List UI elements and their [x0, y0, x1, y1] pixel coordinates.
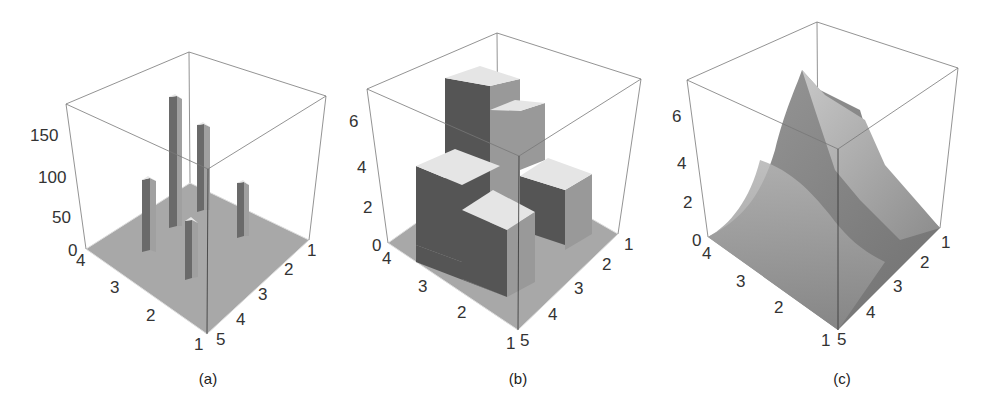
- svg-text:3: 3: [736, 272, 745, 291]
- panel-c: 6420 4321 54321 (c): [660, 0, 990, 411]
- figure: 150100500 4321 54321 (a): [0, 0, 992, 411]
- svg-text:1: 1: [194, 335, 203, 354]
- svg-text:1: 1: [624, 235, 633, 254]
- svg-text:50: 50: [52, 208, 71, 227]
- svg-text:1: 1: [821, 331, 830, 350]
- svg-text:2: 2: [457, 303, 466, 322]
- svg-text:3: 3: [110, 278, 119, 297]
- chart-b-bar3d: 6420 4321 54321: [330, 0, 660, 411]
- svg-text:5: 5: [216, 330, 225, 349]
- chart-a-bar3d: 150100500 4321 54321: [0, 0, 330, 411]
- svg-text:1: 1: [941, 233, 950, 252]
- svg-text:4: 4: [357, 158, 366, 177]
- svg-text:2: 2: [146, 306, 155, 325]
- svg-text:4: 4: [866, 303, 875, 322]
- svg-text:2: 2: [920, 253, 929, 272]
- svg-text:3: 3: [418, 277, 427, 296]
- svg-text:3: 3: [258, 285, 267, 304]
- svg-text:4: 4: [236, 310, 245, 329]
- svg-text:6: 6: [672, 107, 681, 126]
- svg-text:4: 4: [677, 154, 686, 173]
- panel-a: 150100500 4321 54321 (a): [0, 0, 330, 411]
- svg-text:4: 4: [76, 251, 85, 270]
- svg-text:2: 2: [774, 298, 783, 317]
- svg-text:1: 1: [307, 241, 316, 260]
- svg-text:4: 4: [702, 244, 711, 263]
- svg-text:2: 2: [683, 193, 692, 212]
- svg-text:0: 0: [692, 231, 701, 250]
- svg-text:2: 2: [363, 198, 372, 217]
- svg-text:6: 6: [349, 112, 358, 131]
- svg-text:1: 1: [506, 334, 515, 353]
- chart-c-surface3d: 6420 4321 54321: [660, 0, 992, 411]
- svg-text:3: 3: [574, 279, 583, 298]
- caption-a: (a): [178, 370, 238, 387]
- svg-text:5: 5: [520, 331, 529, 350]
- caption-b: (b): [488, 370, 548, 387]
- svg-text:100: 100: [38, 168, 66, 187]
- svg-text:2: 2: [284, 260, 293, 279]
- svg-text:4: 4: [382, 249, 391, 268]
- svg-text:4: 4: [548, 305, 557, 324]
- svg-text:2: 2: [602, 255, 611, 274]
- svg-text:3: 3: [893, 277, 902, 296]
- panel-b: 6420 4321 54321 (b): [330, 0, 660, 411]
- svg-text:5: 5: [837, 330, 846, 349]
- caption-c: (c): [812, 370, 872, 387]
- svg-text:0: 0: [372, 236, 381, 255]
- svg-text:150: 150: [30, 126, 58, 145]
